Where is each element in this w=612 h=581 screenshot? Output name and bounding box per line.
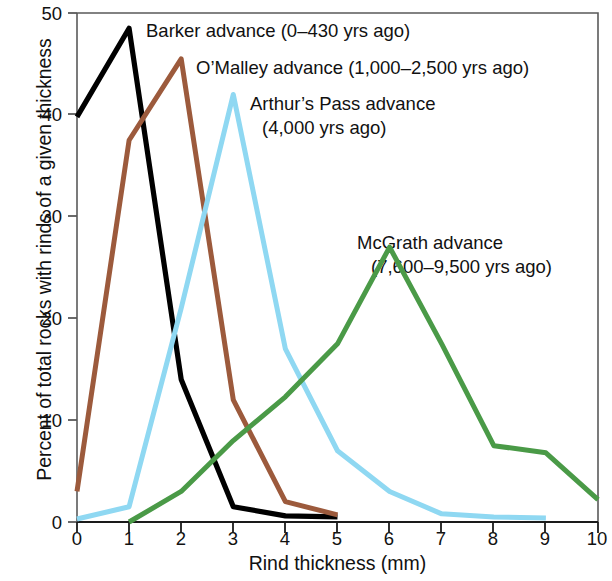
series-line	[77, 28, 338, 517]
x-tick-marks	[77, 522, 598, 533]
series-line	[129, 247, 598, 522]
data-series-layer	[77, 28, 598, 522]
y-tick-marks	[68, 13, 77, 522]
